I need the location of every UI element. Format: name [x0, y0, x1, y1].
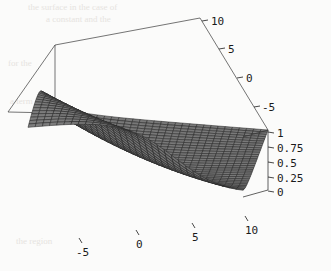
surface-mesh-cell: [53, 111, 61, 114]
surface-mesh-cell: [42, 122, 50, 126]
x-tick-label: 10: [245, 224, 258, 237]
surface-mesh-cell: [58, 116, 66, 119]
surface-mesh-cell: [235, 178, 243, 180]
surface-mesh-cell: [39, 111, 47, 114]
surface-mesh-cell: [220, 161, 228, 163]
surface-mesh-cell: [230, 152, 238, 155]
x-axis-tick-labels: -5 0 5 10: [76, 224, 258, 259]
surface-mesh-cell: [237, 154, 245, 156]
surface-mesh-cell: [215, 154, 223, 157]
surface-mesh-cell: [232, 166, 240, 168]
surface-mesh-cell: [57, 122, 65, 125]
surface-mesh-cell: [248, 161, 256, 163]
surface-mesh-cell: [224, 170, 232, 172]
y-tick-label: 0: [246, 72, 253, 85]
surface-mesh-cell: [228, 159, 236, 161]
surface-mesh-cell: [212, 163, 220, 165]
surface-mesh-cell: [214, 159, 222, 161]
surface-mesh-cell: [219, 163, 227, 165]
z-tick-label: 0.75: [277, 142, 304, 155]
y-axis-ticks: [202, 20, 260, 107]
z-tick-label: 0: [277, 186, 284, 199]
surface-mesh-cell: [243, 157, 251, 159]
x-tick-label: 5: [192, 231, 199, 244]
surface-mesh-cell: [33, 105, 41, 108]
surface-mesh-cell: [221, 159, 229, 161]
surface-mesh-cell: [33, 108, 41, 111]
y-tick-label: -5: [262, 101, 275, 114]
surface-mesh-cell: [222, 156, 230, 158]
surface-mesh-cell: [224, 168, 232, 170]
surface-mesh-cell: [207, 156, 215, 159]
surface-mesh-cell: [71, 122, 79, 125]
surface-mesh-cell: [64, 122, 72, 125]
z-axis-ticks: [268, 132, 274, 192]
surface-mesh-cell: [206, 159, 214, 161]
surface-mesh-cell: [242, 159, 250, 161]
surface-mesh-cell: [227, 161, 235, 163]
surface-mesh-cell: [65, 119, 73, 122]
surface-mesh-cell: [218, 166, 226, 168]
surface-mesh-cell: [46, 111, 54, 114]
x-tick-label: -5: [76, 246, 89, 259]
surface-plot-canvas: 10 5 0 -5 1 0.75 0.5 0.25 0 -5: [0, 0, 331, 271]
surface-mesh-cell: [237, 152, 245, 154]
surface-mesh-cell: [35, 123, 43, 127]
surface-mesh-cell: [45, 114, 53, 117]
surface-mesh-cell: [85, 122, 93, 124]
surface-mesh-cell: [213, 161, 221, 163]
surface-mesh-cell: [249, 159, 257, 161]
surface-mesh-cell: [211, 166, 219, 168]
surface-mesh-cell: [222, 154, 230, 157]
surface-mesh-cell: [72, 119, 80, 122]
surface-mesh-cell: [230, 172, 238, 174]
sigmoid-surface-mesh: [28, 91, 268, 190]
surface-mesh-cell: [234, 161, 242, 163]
y-tick-label: 10: [211, 15, 224, 28]
surface-mesh-cell: [244, 154, 252, 156]
surface-mesh-cell: [223, 172, 231, 174]
surface-mesh-cell: [52, 114, 60, 117]
surface-mesh-cell: [229, 156, 237, 158]
surface-mesh-cell: [241, 161, 249, 163]
surface-mesh-cell: [236, 157, 244, 159]
surface-mesh-cell: [229, 174, 237, 176]
surface-mesh-cell: [250, 157, 258, 159]
surface-mesh-cell: [226, 163, 234, 165]
z-tick-label: 0.5: [277, 157, 297, 170]
surface-mesh-cell: [40, 108, 48, 111]
z-tick-label: 0.25: [277, 172, 304, 185]
surface-plot-figure: the surface in the case of a constant an…: [0, 0, 331, 271]
y-axis-tick-labels: 10 5 0 -5: [211, 15, 275, 114]
surface-mesh-cell: [217, 168, 225, 170]
surface-mesh-cell: [47, 108, 55, 111]
surface-mesh-cell: [59, 114, 67, 117]
x-axis-ticks: [79, 216, 248, 243]
surface-mesh-cell: [214, 156, 222, 158]
z-axis-tick-labels: 1 0.75 0.5 0.25 0: [277, 127, 304, 199]
surface-mesh-cell: [206, 161, 214, 163]
surface-mesh-cell: [251, 154, 259, 156]
surface-mesh-cell: [66, 116, 74, 119]
z-tick-label: 1: [277, 127, 284, 140]
x-tick-label: 0: [136, 238, 143, 251]
surface-mesh-cell: [233, 163, 241, 165]
y-tick-label: 5: [228, 43, 235, 56]
surface-mesh-cell: [50, 122, 58, 126]
surface-mesh-cell: [240, 163, 248, 165]
surface-mesh-cell: [225, 166, 233, 168]
surface-mesh-cell: [78, 122, 86, 125]
surface-mesh-cell: [235, 159, 243, 161]
surface-mesh-cell: [28, 123, 36, 127]
surface-mesh-cell: [229, 154, 237, 156]
